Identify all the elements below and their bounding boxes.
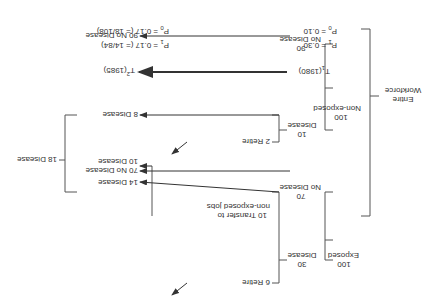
non-exposed-count: 100 — [321, 113, 361, 122]
non-exposed-disease-label: Disease — [287, 121, 317, 130]
non-exposed-disease-out: 8 Disease — [102, 110, 138, 119]
combined-disease: 18 Disease — [17, 155, 57, 164]
exposed-no-disease-label: No Disease — [281, 183, 321, 192]
exposed-disease-out: 14 Disease — [98, 178, 138, 187]
diagram-canvas: Entire Workforce 100 Exposed 100 Non-exp… — [0, 0, 437, 300]
t2-p0: P0 = 0.17 (= 18/108) — [97, 23, 169, 36]
non-exposed-retire: 2 Retire — [242, 137, 270, 146]
transfer-disease-out: 10 Disease — [98, 157, 138, 166]
root-node-label: Entire Workforce — [383, 86, 423, 104]
exposed-disease-node: 30 Disease — [287, 251, 317, 269]
transfer-line1: 10 Transfer to — [218, 211, 267, 220]
exposed-disease-label: Disease — [287, 251, 317, 260]
exposed-retire: 6 Retire — [242, 278, 270, 287]
non-exposed-disease-node: 10 Disease — [287, 121, 317, 139]
t2-p1: P1 = 0.17 (= 14/84) — [101, 37, 169, 50]
root-line1: Entire — [383, 95, 423, 104]
exposed-no-disease-out: 70 No Disease — [86, 166, 138, 175]
timepoint-t1: T1(1980) — [299, 63, 330, 76]
exposed-node: 100 Exposed — [329, 251, 359, 269]
exposed-label: Exposed — [329, 251, 359, 260]
exposed-count: 100 — [329, 260, 359, 269]
t1-p1: P1 = 0.30 — [304, 37, 337, 50]
exposed-no-disease-count: 70 — [281, 192, 321, 201]
exposed-disease-count: 30 — [287, 260, 317, 269]
timepoint-t2: T2(1985) — [104, 66, 135, 78]
tree-lines — [0, 0, 437, 300]
non-exposed-disease-count: 10 — [287, 130, 317, 139]
t1-p0: P0 = 0.10 — [304, 23, 337, 36]
root-line2: Workforce — [383, 86, 423, 95]
non-exposed-node: 100 Non-exposed — [321, 104, 361, 122]
exposed-no-disease-node: 70 No Disease — [281, 183, 321, 201]
non-exposed-label: Non-exposed — [321, 104, 361, 113]
transfer-line2: non-exposed jobs — [207, 202, 270, 211]
